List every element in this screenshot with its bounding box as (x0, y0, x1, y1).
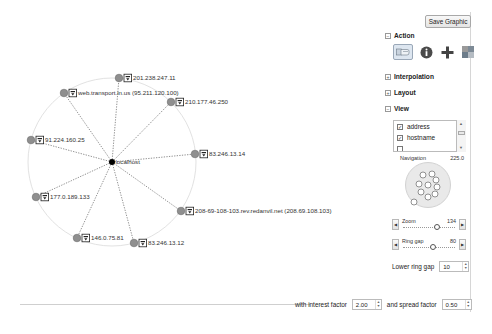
plus-icon (441, 46, 454, 59)
node-label: web.transport.in.us (95.211.120.100) (77, 89, 179, 96)
graph-node[interactable]: 91.224.160.25 (27, 136, 85, 144)
interest-factor-label: with interest factor (295, 301, 347, 308)
add-tool-button[interactable] (439, 44, 455, 60)
spinner-arrows-icon[interactable]: ▲▼ (465, 300, 471, 309)
scroll-up-icon[interactable]: ▲ (459, 121, 463, 126)
graph-node[interactable]: 83.246.13.14 (191, 150, 245, 158)
zoom-track[interactable] (403, 227, 455, 228)
spinner-arrows-icon[interactable]: ▲▼ (462, 262, 468, 271)
ring-gap-thumb[interactable] (430, 244, 436, 250)
info-icon (420, 46, 433, 59)
zoom-label: Zoom (402, 218, 416, 224)
computer-icon (200, 150, 208, 158)
graph-node[interactable]: 146.0.75.81 (73, 234, 124, 242)
zoom-value: 134 (447, 218, 456, 224)
lower-ring-gap-input[interactable]: 10 (440, 264, 462, 270)
graph-node[interactable]: 201.238.247.11 (115, 74, 176, 82)
checkbox-checked-icon[interactable]: ✓ (397, 135, 403, 141)
node-label: 91.224.160.25 (45, 136, 85, 143)
save-graphic-button[interactable]: Save Graphic (425, 15, 471, 28)
section-layout-header[interactable]: + Layout (385, 89, 416, 96)
scroll-down-icon[interactable]: ▼ (459, 145, 463, 150)
computer-icon (186, 207, 194, 215)
zoom-increase-button[interactable]: ▶ (459, 219, 466, 230)
radial-graph-canvas[interactable]: 201.238.247.11 web.transport.in.us (95.2… (0, 0, 380, 290)
section-interpolation-label: Interpolation (394, 73, 434, 80)
section-action-header[interactable]: − Action (385, 32, 415, 39)
bottom-divider (20, 304, 310, 305)
host-node-icon (32, 193, 40, 201)
section-action-label: Action (394, 32, 415, 39)
action-toolbar (393, 44, 476, 60)
computer-icon (176, 98, 184, 106)
graph-node[interactable]: 208-69-108-103.rev.redanvil.net (208.69.… (177, 207, 331, 215)
computer-icon (139, 239, 147, 247)
view-item-partial[interactable] (394, 143, 456, 152)
host-node-icon (167, 98, 175, 106)
computer-icon (124, 74, 132, 82)
pan-tool-button[interactable] (393, 44, 413, 60)
view-item-label: hostname (407, 134, 435, 141)
computer-icon (82, 234, 90, 242)
host-node-icon (130, 239, 138, 247)
spinner-arrows-icon[interactable]: ▲▼ (375, 300, 381, 309)
checkbox-checked-icon[interactable]: ✓ (397, 124, 403, 130)
node-label: 210.177.46.250 (185, 98, 229, 105)
host-node-icon (191, 150, 199, 158)
view-item-hostname[interactable]: ✓ hostname (394, 132, 456, 143)
factor-controls: with interest factor 2.00 ▲▼ and spread … (295, 299, 472, 310)
collapse-icon: − (385, 106, 391, 112)
zoom-decrease-button[interactable]: ◀ (392, 219, 399, 230)
graph-node[interactable]: 177.0.189.133 (32, 193, 90, 201)
color-tool-button[interactable] (460, 44, 476, 60)
center-node[interactable]: localhost (109, 158, 140, 165)
ring-gap-decrease-button[interactable]: ◀ (392, 239, 399, 250)
section-interpolation-header[interactable]: + Interpolation (385, 73, 434, 80)
center-node-label: localhost (116, 158, 141, 165)
view-list-scrollbar[interactable]: ▲ ▼ (457, 120, 466, 152)
section-layout-label: Layout (394, 89, 416, 96)
view-item-address[interactable]: ✓ address (394, 121, 456, 132)
graph-node[interactable]: web.transport.in.us (95.211.120.100) (60, 89, 178, 97)
collapse-icon: − (385, 33, 391, 39)
computer-icon (36, 136, 44, 144)
navigation-value: 225.0 (450, 155, 464, 161)
spread-factor-spinner[interactable]: 0.50 ▲▼ (442, 299, 472, 310)
lower-ring-gap-spinner[interactable]: 10 ▲▼ (439, 261, 469, 272)
info-tool-button[interactable] (418, 44, 434, 60)
navigation-minimap[interactable] (405, 162, 451, 208)
lower-ring-gap-row: Lower ring gap 10 ▲▼ (392, 261, 469, 272)
node-label: 83.246.13.12 (148, 239, 185, 246)
lower-ring-gap-label: Lower ring gap (392, 263, 434, 270)
navigation-label: Navigation (400, 155, 426, 161)
zoom-thumb[interactable] (434, 224, 440, 230)
graph-node[interactable]: 210.177.46.250 (167, 98, 228, 106)
zoom-slider[interactable]: ◀ Zoom 134 ▶ (392, 219, 466, 230)
host-node-icon (60, 89, 68, 97)
host-node-icon (27, 136, 35, 144)
ring-gap-value: 80 (450, 238, 456, 244)
host-node-icon (73, 234, 81, 242)
view-attributes-list[interactable]: ✓ address ✓ hostname (393, 120, 457, 152)
checkbox-icon[interactable] (397, 146, 403, 152)
localhost-node-icon (109, 159, 115, 165)
node-label: 208-69-108-103.rev.redanvil.net (208.69.… (195, 207, 331, 214)
expand-icon: + (385, 74, 391, 80)
section-view-header[interactable]: − View (385, 105, 409, 112)
ring-gap-track[interactable] (403, 247, 455, 248)
navigation-row: Navigation 225.0 (400, 155, 464, 161)
scroll-thumb[interactable] (458, 131, 465, 135)
ring-gap-slider[interactable]: ◀ Ring gap 80 ▶ (392, 239, 466, 250)
host-node-icon (177, 207, 185, 215)
spread-factor-input[interactable]: 0.50 (443, 302, 465, 308)
spread-factor-label: and spread factor (387, 301, 437, 308)
hand-pointer-icon (396, 47, 410, 57)
minimap-graph-icon (405, 162, 451, 208)
host-node-icon (115, 74, 123, 82)
ring-gap-increase-button[interactable]: ▶ (459, 239, 466, 250)
graph-node[interactable]: 83.246.13.12 (130, 239, 184, 247)
node-label: 177.0.189.133 (50, 193, 90, 200)
interest-factor-input[interactable]: 2.00 (353, 302, 375, 308)
interest-factor-spinner[interactable]: 2.00 ▲▼ (352, 299, 382, 310)
node-label: 146.0.75.81 (91, 234, 124, 241)
